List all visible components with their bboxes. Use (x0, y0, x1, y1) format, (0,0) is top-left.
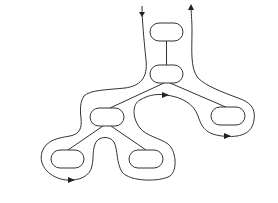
edge-n2-n3 (110, 83, 164, 108)
direction-arrow-under-n4-icon (224, 133, 231, 139)
tree-node-root (150, 23, 183, 41)
direction-arrow-toward-n4-icon (162, 92, 169, 98)
exit-arrow-up-icon (188, 4, 194, 10)
entry-arrow-down-icon (139, 12, 145, 17)
direction-arrow-under-n5-icon (68, 177, 75, 183)
euler-tour-diagram (0, 0, 278, 203)
tree-node-n2 (150, 65, 183, 83)
tree-node-n3 (90, 108, 124, 126)
edge-n3-n5 (68, 126, 103, 150)
tree-nodes (51, 23, 245, 168)
tree-node-n5 (51, 150, 84, 168)
tree-node-n4 (211, 107, 245, 125)
edge-n2-n4 (170, 83, 228, 108)
tree-node-n6 (129, 150, 163, 168)
